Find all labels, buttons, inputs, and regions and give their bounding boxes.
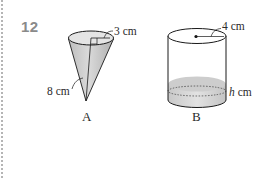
cylinder-liquid-height-label: h cm: [229, 87, 252, 99]
cone-a: [69, 31, 114, 101]
cone-height-label: 8 cm: [47, 86, 70, 98]
figure-a-label: A: [82, 110, 91, 123]
figure-b-label: B: [192, 110, 201, 123]
height-unit: cm: [235, 86, 252, 98]
cylinder-b: [168, 29, 226, 108]
cylinder-radius-label: 4 cm: [222, 21, 245, 33]
cone-radius-label: 3 cm: [114, 26, 137, 38]
